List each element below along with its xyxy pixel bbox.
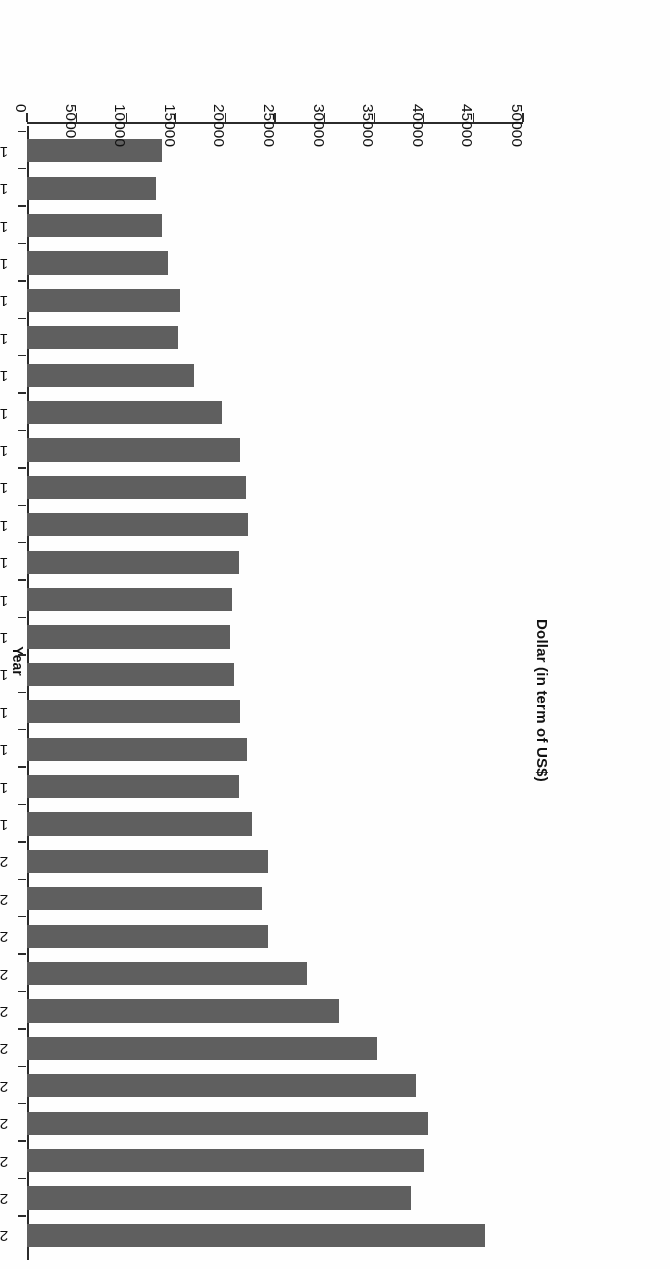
category-axis-tick [18, 916, 26, 917]
value-axis-tick-label: 50000 [508, 104, 526, 147]
category-axis-label: 2004 [0, 1003, 13, 1021]
category-axis-tick [18, 1028, 26, 1029]
bar[interactable] [27, 513, 248, 536]
category-axis-tick [18, 1103, 26, 1104]
category-axis-label: 2003 [0, 966, 13, 984]
value-axis-tick-label: 25000 [260, 104, 278, 147]
value-axis-tick-label: 15000 [161, 104, 179, 147]
category-axis-tick [18, 579, 26, 580]
category-axis-tick [18, 991, 26, 992]
category-axis-tick [18, 542, 26, 543]
category-axis-label: 2001 [0, 891, 13, 909]
category-axis-label: 2010 [0, 1227, 13, 1245]
category-axis-tick [18, 729, 26, 730]
category-axis-tick [18, 617, 26, 618]
bar-row: 1988 [27, 394, 523, 431]
bar[interactable] [27, 476, 246, 499]
category-axis-tick [18, 205, 26, 206]
bar[interactable] [27, 775, 239, 798]
category-axis-label: 2009 [0, 1190, 13, 1208]
bar[interactable] [27, 588, 232, 611]
category-axis-tick [18, 318, 26, 319]
bar[interactable] [27, 812, 252, 835]
bar[interactable] [27, 962, 307, 985]
bar[interactable] [27, 438, 240, 461]
chart-rotated-wrapper: Dollar (in term of US$) Year 20102009200… [0, 0, 580, 1269]
category-axis-label: 1998 [0, 779, 13, 797]
category-axis-tick [18, 392, 26, 393]
category-axis-label: 1981 [0, 143, 13, 161]
bar[interactable] [27, 326, 178, 349]
bar[interactable] [27, 700, 240, 723]
bar-row: 2007 [27, 1104, 523, 1141]
bar-row: 2003 [27, 955, 523, 992]
category-axis-label: 2000 [0, 853, 13, 871]
bar[interactable] [27, 551, 239, 574]
category-axis-tick [18, 243, 26, 244]
bar[interactable] [27, 289, 180, 312]
bar-row: 2010 [27, 1217, 523, 1254]
bar-row: 2009 [27, 1179, 523, 1216]
category-axis-tick [18, 953, 26, 954]
category-axis-label: 2005 [0, 1040, 13, 1058]
bar[interactable] [27, 1037, 377, 1060]
bar-row: 1994 [27, 618, 523, 655]
bar-row: 1993 [27, 581, 523, 618]
category-axis-label: 1990 [0, 479, 13, 497]
bar-row: 1998 [27, 768, 523, 805]
category-axis-label: 1994 [0, 629, 13, 647]
bar[interactable] [27, 887, 262, 910]
value-axis-tick-label: 5000 [62, 104, 80, 138]
category-axis-tick [18, 467, 26, 468]
category-axis-tick [18, 1066, 26, 1067]
bar-row: 1987 [27, 356, 523, 393]
bar[interactable] [27, 850, 268, 873]
bar-chart: Dollar (in term of US$) Year 20102009200… [0, 0, 580, 1269]
category-axis-label: 1988 [0, 405, 13, 423]
category-axis-tick [18, 280, 26, 281]
category-axis-label: 1993 [0, 592, 13, 610]
bar[interactable] [27, 1112, 428, 1135]
plot-area: 2010200920082007200620052004200320022001… [27, 132, 523, 1254]
bar-row: 1997 [27, 730, 523, 767]
bar[interactable] [27, 999, 339, 1022]
bar[interactable] [27, 177, 156, 200]
bar[interactable] [27, 663, 234, 686]
category-axis-label: 2007 [0, 1115, 13, 1133]
bar[interactable] [27, 738, 247, 761]
value-axis-tick-label: 40000 [409, 104, 427, 147]
bar[interactable] [27, 1224, 485, 1247]
category-axis-label: 1986 [0, 330, 13, 348]
bar-row: 2008 [27, 1142, 523, 1179]
bar[interactable] [27, 214, 162, 237]
bar[interactable] [27, 401, 222, 424]
bar-row: 1996 [27, 693, 523, 730]
category-axis-tick [18, 654, 26, 655]
value-axis-tick-label: 45000 [458, 104, 476, 147]
bar[interactable] [27, 364, 194, 387]
scanned-page: Dollar (in term of US$) Year 20102009200… [0, 0, 670, 1269]
category-axis-label: 1985 [0, 292, 13, 310]
category-axis-tick [18, 505, 26, 506]
bar[interactable] [27, 1186, 411, 1209]
category-axis-label: 1989 [0, 442, 13, 460]
category-axis-tick [18, 430, 26, 431]
bar[interactable] [27, 1149, 424, 1172]
category-axis-tick [18, 692, 26, 693]
bar[interactable] [27, 251, 168, 274]
category-axis-tick [18, 1140, 26, 1141]
value-axis-tick-label: 10000 [111, 104, 129, 147]
bar-row: 2000 [27, 843, 523, 880]
bar[interactable] [27, 625, 230, 648]
bar-row: 2002 [27, 917, 523, 954]
bar-row: 1999 [27, 805, 523, 842]
category-axis-label: 1991 [0, 517, 13, 535]
bar-row: 2006 [27, 1067, 523, 1104]
value-axis-title: Dollar (in term of US$) [535, 601, 552, 801]
bar[interactable] [27, 139, 162, 162]
category-axis-label: 1995 [0, 666, 13, 684]
bar[interactable] [27, 1074, 416, 1097]
category-axis-tick [18, 131, 26, 132]
category-axis-tick [18, 841, 26, 842]
bar[interactable] [27, 925, 268, 948]
